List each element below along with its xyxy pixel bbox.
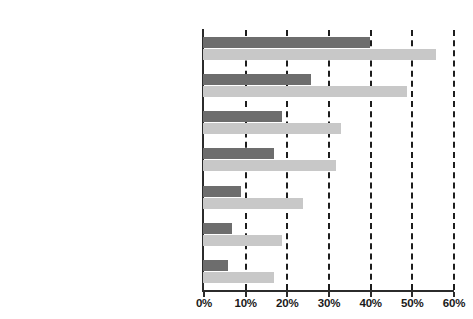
bar-light	[203, 86, 407, 97]
bar-light	[203, 272, 274, 283]
bar-dark	[203, 186, 241, 197]
x-tick-label: 20%	[276, 297, 298, 309]
x-tick-label: 0%	[196, 297, 212, 309]
x-tick-label: 30%	[318, 297, 340, 309]
bar-light	[203, 235, 282, 246]
x-tick-label: 60%	[443, 297, 465, 309]
x-tick-label: 10%	[234, 297, 256, 309]
bar-dark	[203, 111, 282, 122]
bar-chart: 0%10%20%30%40%50%60% Complained in perso…	[0, 0, 473, 319]
x-tick-label: 40%	[359, 297, 381, 309]
x-tick-label: 50%	[401, 297, 423, 309]
bar-group	[203, 216, 453, 253]
bar-group	[203, 104, 453, 141]
plot-area	[203, 30, 453, 290]
bar-light	[203, 123, 341, 134]
bar-group	[203, 30, 453, 67]
gridline-60pct	[453, 30, 455, 290]
bar-light	[203, 160, 336, 171]
bar-light	[203, 198, 303, 209]
bar-group	[203, 253, 453, 290]
bar-dark	[203, 37, 370, 48]
bar-group	[203, 141, 453, 178]
bar-dark	[203, 148, 274, 159]
bar-group	[203, 67, 453, 104]
bar-dark	[203, 74, 311, 85]
bar-light	[203, 49, 436, 60]
bar-group	[203, 179, 453, 216]
bar-dark	[203, 223, 232, 234]
bar-dark	[203, 260, 228, 271]
